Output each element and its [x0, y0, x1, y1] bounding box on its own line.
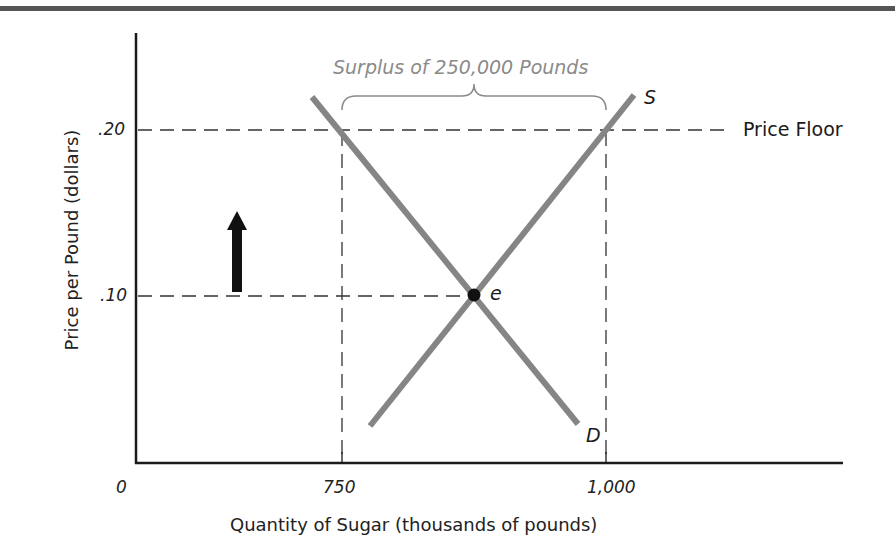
demand-curve-label: D: [586, 424, 601, 446]
demand-curve: [312, 97, 578, 424]
equilibrium-label: e: [490, 282, 502, 304]
equilibrium-point: [468, 289, 481, 302]
y-tick-label-10: .10: [100, 285, 127, 305]
x-tick-label-750: 750: [323, 477, 355, 497]
x-axis-title: Quantity of Sugar (thousands of pounds): [230, 514, 597, 535]
x-tick-label-1000: 1,000: [587, 477, 636, 497]
supply-curve: [370, 95, 634, 426]
y-tick-label-20: .20: [98, 119, 125, 139]
chart-canvas: [0, 0, 895, 552]
y-axis-title: Price per Pound (dollars): [61, 130, 82, 351]
surplus-annotation: Surplus of 250,000 Pounds: [333, 56, 588, 78]
surplus-brace: [342, 84, 606, 110]
price-increase-arrow-icon: [227, 211, 247, 292]
x-tick-label-0: 0: [116, 477, 127, 497]
dashed-guides: [138, 130, 730, 462]
supply-curve-label: S: [644, 86, 656, 108]
price-floor-label: Price Floor: [743, 118, 843, 140]
